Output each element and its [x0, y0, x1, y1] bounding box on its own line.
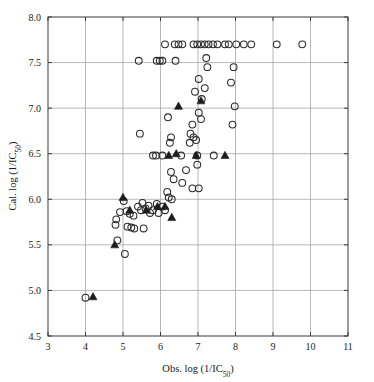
data-point-circle: [121, 251, 128, 258]
data-point-circle: [186, 139, 193, 146]
data-point-circle: [203, 55, 210, 62]
data-point-triangle: [221, 151, 229, 158]
x-tick-label: 9: [271, 341, 276, 352]
data-point-circle: [201, 85, 208, 92]
data-point-circle: [204, 64, 211, 71]
data-point-circle: [140, 225, 147, 232]
data-point-circle: [273, 41, 280, 48]
x-tick-label: 11: [343, 341, 353, 352]
y-tick-label: 7.0: [29, 103, 42, 114]
x-tick-label: 10: [306, 341, 316, 352]
series-training-set: [82, 41, 306, 301]
data-points-group: [82, 41, 306, 301]
data-point-circle: [194, 161, 201, 168]
data-point-circle: [162, 41, 169, 48]
data-point-circle: [136, 130, 143, 137]
x-tick-label: 6: [158, 341, 163, 352]
data-point-circle: [230, 64, 237, 71]
data-point-circle: [229, 121, 236, 128]
data-point-circle: [165, 114, 172, 121]
data-point-circle: [210, 152, 217, 159]
data-point-circle: [195, 109, 202, 116]
data-point-circle: [228, 79, 235, 86]
series-test-set: [89, 97, 229, 300]
data-point-circle: [179, 179, 186, 186]
data-point-circle: [172, 57, 179, 64]
y-tick-label: 6.5: [29, 148, 42, 159]
data-point-circle: [189, 185, 196, 192]
gridlines-group: [48, 17, 348, 336]
data-point-circle: [135, 57, 142, 64]
x-tick-label: 7: [196, 341, 201, 352]
x-tick-label: 5: [121, 341, 126, 352]
data-point-circle: [183, 167, 190, 174]
x-tick-label: 8: [233, 341, 238, 352]
y-tick-label: 5.0: [29, 285, 42, 296]
data-point-circle: [192, 88, 199, 95]
y-tick-label: 4.5: [29, 331, 42, 342]
data-point-circle: [198, 116, 205, 123]
data-point-triangle: [168, 213, 176, 220]
data-point-circle: [195, 76, 202, 83]
data-point-circle: [233, 41, 240, 48]
data-point-circle: [195, 185, 202, 192]
x-axis-label: Obs. log (1/IC50): [162, 363, 234, 379]
x-tick-label: 3: [46, 341, 51, 352]
data-point-triangle: [175, 102, 183, 109]
y-axis-label: Cal. log (1/IC50): [7, 141, 23, 211]
data-point-circle: [155, 210, 162, 217]
data-point-triangle: [89, 293, 97, 300]
data-point-circle: [240, 41, 247, 48]
y-tick-label: 6.0: [29, 194, 42, 205]
x-tick-label: 4: [83, 341, 88, 352]
data-point-circle: [248, 41, 255, 48]
scatter-chart: 345678910114.55.05.56.06.57.07.58.0 Obs.…: [0, 0, 374, 382]
y-tick-label: 5.5: [29, 239, 42, 250]
data-point-circle: [170, 176, 177, 183]
scatter-plot-figure: 345678910114.55.05.56.06.57.07.58.0 Obs.…: [0, 0, 374, 382]
data-point-circle: [117, 209, 124, 216]
data-point-circle: [299, 41, 306, 48]
data-point-triangle: [119, 193, 127, 200]
y-tick-label: 8.0: [29, 12, 42, 23]
data-point-circle: [189, 121, 196, 128]
data-point-circle: [168, 169, 175, 176]
data-point-triangle: [126, 206, 134, 213]
data-point-triangle: [111, 241, 119, 248]
data-point-circle: [231, 103, 238, 110]
y-tick-label: 7.5: [29, 57, 42, 68]
